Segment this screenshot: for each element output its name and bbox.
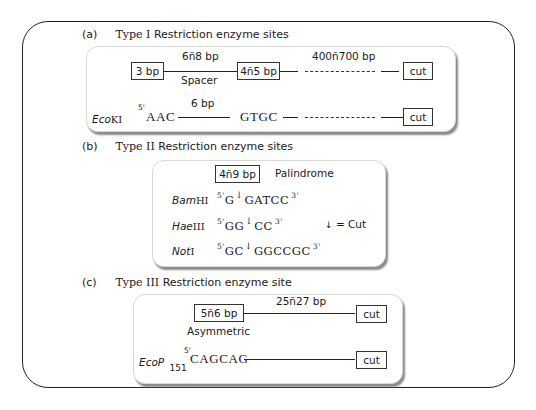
- enzyme-row-noti-name: NotI: [172, 245, 194, 257]
- section-c-title: Restriction enzyme site: [163, 276, 292, 289]
- seq-before: G: [225, 193, 235, 207]
- section-c-size-box: 5ñ6 bp: [194, 304, 244, 322]
- section-a-type: Type I: [116, 28, 151, 41]
- section-b-header: (b) Type II Restriction enzyme sites: [82, 140, 293, 153]
- section-c-seq: CAGCAG: [190, 351, 249, 367]
- section-a-cut-bottom: cut: [403, 108, 433, 126]
- enzyme-italic: Bam: [172, 194, 196, 206]
- cut-legend: ↓ = Cut: [325, 218, 366, 230]
- section-c-tag: (c): [82, 276, 112, 289]
- section-a-gap-line: [178, 117, 230, 118]
- cut-label: cut: [363, 354, 380, 366]
- section-b-size-box: 4ñ9 bp: [215, 165, 260, 183]
- section-a-line-1: [280, 71, 298, 72]
- seq-after: GATCC: [245, 193, 290, 207]
- section-c-cut-top: cut: [356, 305, 387, 323]
- section-a-line-4: [381, 117, 403, 118]
- enzyme-row-bamhi-seq: 5'G↓GATCC3': [217, 190, 299, 207]
- cut-label: cut: [410, 111, 427, 123]
- section-c-distance: 25ñ27 bp: [276, 295, 326, 307]
- section-a-line-2: [381, 71, 399, 72]
- section-c-type: Type III: [116, 276, 160, 289]
- seq-after: GGCCGC: [254, 244, 311, 258]
- section-a-spacer-label: Spacer: [181, 74, 217, 86]
- cut-label: cut: [363, 308, 380, 320]
- section-a-tag: (a): [82, 28, 112, 41]
- section-c-top-line: [244, 313, 355, 314]
- prime3: 3': [275, 217, 283, 226]
- section-b-title: Restriction enzyme sites: [158, 140, 293, 153]
- section-a-gap-size: 6 bp: [191, 97, 214, 109]
- section-c-asymmetric: Asymmetric: [187, 325, 250, 337]
- section-a-enzyme: EcoKI: [92, 113, 122, 125]
- section-a-3bp-box: 3 bp: [131, 62, 164, 80]
- prime3: 3': [291, 191, 299, 200]
- cut-legend-text: = Cut: [336, 218, 366, 230]
- section-a-cut-top: cut: [403, 62, 433, 80]
- section-c-header: (c) Type III Restriction enzyme site: [82, 276, 292, 289]
- prime3: 3': [313, 242, 321, 251]
- box-label: 3 bp: [136, 65, 159, 77]
- enzyme-row-bamhi-name: BamHI: [172, 194, 209, 206]
- enzyme-row-noti-seq: 5'GC↓GGCCGC3': [217, 241, 321, 258]
- prime5: 5': [217, 191, 225, 200]
- section-b-tag: (b): [82, 140, 112, 153]
- section-a-spacer-line: [164, 71, 238, 72]
- prime5: 5': [217, 242, 225, 251]
- section-a-seq-left: AAC: [146, 109, 175, 125]
- section-a-spacer-size: 6ñ8 bp: [182, 50, 219, 62]
- enzyme-roman: HI: [196, 195, 209, 206]
- cut-arrow-icon: ↓: [325, 220, 333, 230]
- cut-arrow-icon: ↓: [236, 190, 244, 200]
- enzyme-row-haeiii-name: HaeIII: [172, 220, 205, 232]
- enzyme-roman: III: [193, 221, 205, 232]
- section-c-cut-bottom: cut: [356, 351, 387, 369]
- cut-label: cut: [410, 65, 427, 77]
- box-label: 4ñ5 bp: [240, 65, 277, 77]
- section-b-type: Type II: [116, 140, 155, 153]
- section-a-45bp-box: 4ñ5 bp: [237, 62, 280, 80]
- section-b-palindrome: Palindrome: [275, 167, 334, 179]
- enzyme-roman: KI: [111, 114, 122, 125]
- section-a-distance: 400ñ700 bp: [312, 50, 375, 62]
- section-a-5prime: 5': [138, 103, 145, 112]
- seq-after: CC: [254, 219, 273, 233]
- enzyme-subscript: 151: [170, 363, 187, 373]
- seq-before: GC: [225, 244, 244, 258]
- section-c-enzyme: EcoP 151: [139, 356, 187, 373]
- enzyme-italic: Eco: [92, 113, 111, 125]
- cut-arrow-icon: ↓: [245, 216, 253, 226]
- enzyme-row-haeiii-seq: 5'GG↓CC3': [217, 216, 283, 233]
- box-label: 5ñ6 bp: [201, 307, 238, 319]
- section-a-dashed-line: [305, 71, 375, 72]
- section-a-seq-right: GTGC: [240, 109, 278, 125]
- box-label: 4ñ9 bp: [219, 168, 256, 180]
- section-a-line-3: [283, 117, 298, 118]
- prime5: 5': [217, 217, 225, 226]
- seq-before: GG: [225, 219, 244, 233]
- section-c-bottom-line: [244, 359, 355, 360]
- section-a-title: Restriction enzyme sites: [154, 28, 289, 41]
- section-a-dashed-line-2: [305, 117, 375, 118]
- section-a-header: (a) Type I Restriction enzyme sites: [82, 28, 289, 41]
- enzyme-italic: Hae: [172, 220, 193, 232]
- cut-arrow-icon: ↓: [245, 241, 253, 251]
- enzyme-italic: EcoP: [139, 356, 164, 368]
- enzyme-italic: Not: [172, 245, 190, 257]
- enzyme-roman: I: [190, 246, 194, 257]
